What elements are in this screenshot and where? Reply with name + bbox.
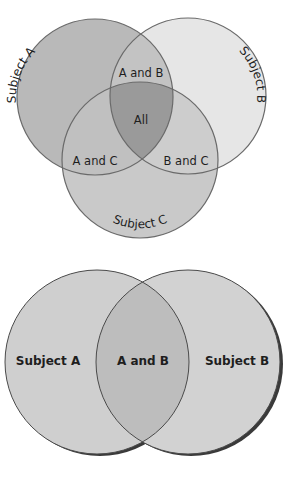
label-subject-a-2: Subject A — [16, 354, 81, 368]
two-set-venn: Subject A A and B Subject B — [5, 270, 283, 456]
label-a-and-c: A and C — [73, 154, 118, 168]
label-all: All — [134, 113, 148, 127]
three-set-venn: Subject A Subject B Subject C A and B Al… — [5, 18, 269, 238]
label-a-and-b-2: A and B — [117, 354, 169, 368]
label-a-and-b: A and B — [119, 66, 164, 80]
label-b-and-c: B and C — [164, 154, 209, 168]
venn-figure: Subject A Subject B Subject C A and B Al… — [0, 0, 296, 477]
label-subject-b-2: Subject B — [205, 354, 269, 368]
